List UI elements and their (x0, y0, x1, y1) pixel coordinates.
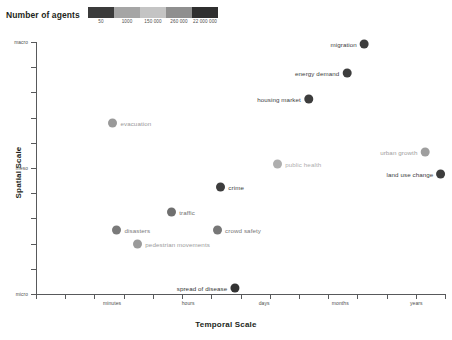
data-point-label: migration (331, 41, 357, 48)
data-point-label: land use change (386, 171, 433, 178)
x-axis-tick-label: minutes (103, 300, 121, 306)
data-point-marker (216, 182, 225, 191)
data-point-label: energy demand (295, 69, 339, 76)
data-point[interactable]: evacuation (108, 118, 151, 127)
y-axis-tick (31, 42, 36, 43)
y-axis-tick-label: meso (2, 166, 28, 171)
x-axis-tick-label: hours (182, 300, 195, 306)
data-point[interactable]: public health (273, 159, 321, 168)
x-axis-tick (387, 294, 388, 299)
data-point-marker (420, 148, 429, 157)
data-point-marker (213, 225, 222, 234)
y-axis-tick (31, 269, 36, 270)
data-point-marker (167, 208, 176, 217)
y-axis-tick (31, 218, 36, 219)
x-axis-tick (445, 294, 446, 299)
x-axis-tick (153, 294, 154, 299)
data-point-label: evacuation (120, 119, 151, 126)
x-axis-tick (270, 294, 271, 299)
x-axis-tick-label: years (410, 300, 423, 306)
data-point-label: crowd safety (225, 226, 261, 233)
data-point[interactable]: crowd safety (213, 225, 261, 234)
y-axis-tick-label: micro (2, 292, 28, 297)
x-axis-tick (328, 294, 329, 299)
y-axis-tick (31, 92, 36, 93)
data-point[interactable]: urban growth (380, 148, 429, 157)
data-point[interactable]: traffic (167, 208, 195, 217)
data-point-marker (112, 225, 121, 234)
data-point-label: urban growth (380, 149, 417, 156)
data-point-marker (230, 283, 239, 292)
data-point-label: pedestrian movements (145, 241, 210, 248)
y-axis-tick (31, 193, 36, 194)
data-point[interactable]: spread of disease (177, 283, 240, 292)
data-point-label: housing market (257, 95, 301, 102)
data-point[interactable]: energy demand (295, 68, 351, 77)
y-axis-tick (31, 67, 36, 68)
y-axis-tick (31, 143, 36, 144)
data-point[interactable]: pedestrian movements (133, 240, 210, 249)
x-axis-tick (211, 294, 212, 299)
x-axis-tick (416, 294, 417, 299)
data-point-label: traffic (179, 209, 195, 216)
data-point-marker (133, 240, 142, 249)
y-axis-tick (31, 168, 36, 169)
x-axis-tick-label: months (332, 300, 349, 306)
data-point-marker (108, 118, 117, 127)
x-axis-title: Temporal Scale (0, 320, 452, 329)
x-axis-tick (124, 294, 125, 299)
data-point[interactable]: disasters (112, 225, 150, 234)
y-axis-tick-label: macro (2, 40, 28, 45)
data-point[interactable]: crime (216, 182, 244, 191)
data-point[interactable]: migration (331, 40, 369, 49)
x-axis-tick (299, 294, 300, 299)
data-point-marker (304, 94, 313, 103)
x-axis-tick (357, 294, 358, 299)
y-axis-tick (31, 118, 36, 119)
y-axis-line (36, 42, 37, 294)
data-point-label: crime (228, 183, 244, 190)
x-axis-tick (65, 294, 66, 299)
x-axis-tick-label: days (259, 300, 270, 306)
x-axis-tick (182, 294, 183, 299)
data-point-label: public health (285, 160, 321, 167)
data-point-label: disasters (124, 226, 150, 233)
data-point-marker (273, 159, 282, 168)
x-axis-tick (94, 294, 95, 299)
y-axis-tick (31, 244, 36, 245)
data-point-marker (436, 170, 445, 179)
data-point[interactable]: housing market (257, 94, 313, 103)
data-point-label: spread of disease (177, 284, 228, 291)
y-axis-title: Spatial Scale (14, 133, 23, 213)
data-point-marker (342, 68, 351, 77)
data-point[interactable]: land use change (386, 170, 445, 179)
x-axis-tick (36, 294, 37, 299)
scatter-plot: Spatial Scale Temporal Scale macromesomi… (0, 0, 452, 340)
x-axis-tick (241, 294, 242, 299)
data-point-marker (360, 40, 369, 49)
